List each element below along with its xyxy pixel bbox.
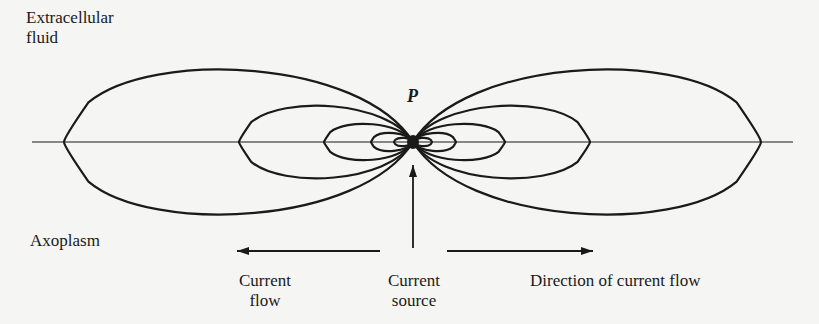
current-flow-line1: Current xyxy=(225,271,305,291)
direction-of-current-flow-label: Direction of current flow xyxy=(530,271,700,291)
current-source-arrow-arrowhead-icon xyxy=(409,165,417,177)
extracellular-label-line1: Extracellular xyxy=(26,8,114,28)
point-p-label: P xyxy=(407,86,418,106)
current-source-line1: Current xyxy=(374,271,454,291)
dipole-field-diagram: Extracellular fluid P Axoplasm Current f… xyxy=(0,0,819,324)
current-flow-left-arrow-arrowhead-icon xyxy=(237,247,249,255)
current-flow-label: Current flow xyxy=(225,271,305,311)
extracellular-label-line2: fluid xyxy=(26,28,114,48)
extracellular-fluid-label: Extracellular fluid xyxy=(26,8,114,48)
current-source-label: Current source xyxy=(374,271,454,311)
current-flow-line2: flow xyxy=(225,291,305,311)
point-p-dot xyxy=(407,135,419,149)
current-source-line2: source xyxy=(374,291,454,311)
current-flow-right-arrow-arrowhead-icon xyxy=(581,247,593,255)
axoplasm-label: Axoplasm xyxy=(30,231,100,251)
